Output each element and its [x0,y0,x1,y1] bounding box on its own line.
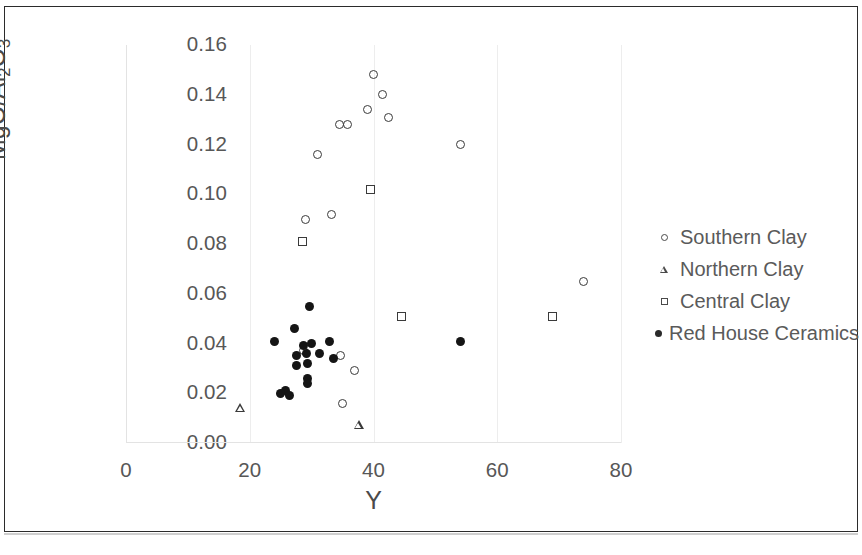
gridline [374,45,375,443]
data-point-red-house-ceramics [276,389,285,398]
x-tick-label: 20 [210,458,290,482]
legend-item-central-clay[interactable]: Central Clay [655,286,855,316]
legend-marker-icon [655,266,673,273]
legend-item-southern-clay[interactable]: Southern Clay [655,222,855,252]
data-point-southern-clay [384,113,393,122]
x-axis-title: Y [126,486,621,515]
data-point-red-house-ceramics [307,339,316,348]
data-point-southern-clay [301,215,310,224]
data-point-red-house-ceramics [302,349,311,358]
legend-marker-icon [655,234,673,241]
data-point-southern-clay [363,105,372,114]
legend-item-red-house-ceramics[interactable]: Red House Ceramics [655,318,855,348]
x-axis-line [126,442,621,443]
plot-area [126,45,621,443]
data-point-southern-clay [369,70,378,79]
data-point-southern-clay [350,366,359,375]
data-point-red-house-ceramics [292,351,301,360]
data-point-red-house-ceramics [290,324,299,333]
data-point-northern-clay [235,403,245,412]
x-tick-label: 60 [457,458,537,482]
gridline [250,45,251,443]
legend-item-label: Red House Ceramics [669,322,859,345]
data-point-southern-clay [313,150,322,159]
legend-item-label: Northern Clay [680,258,803,281]
x-tick-label: 40 [334,458,414,482]
data-point-southern-clay [456,140,465,149]
data-point-northern-clay [354,420,364,429]
data-point-red-house-ceramics [456,337,465,346]
data-point-red-house-ceramics [303,379,312,388]
chart-legend: Southern ClayNorthern ClayCentral ClayRe… [655,222,855,350]
data-point-red-house-ceramics [292,361,301,370]
data-point-southern-clay [338,399,347,408]
data-point-red-house-ceramics [305,302,314,311]
data-point-southern-clay [579,277,588,286]
data-point-central-clay [298,237,307,246]
data-point-red-house-ceramics [270,337,279,346]
scatter-plot-figure: 0.000.020.040.060.080.100.120.140.16 020… [0,0,862,555]
y-axis-title: MgO/Al2O3 [0,39,14,160]
legend-item-label: Central Clay [680,290,790,313]
data-point-red-house-ceramics [329,354,338,363]
data-point-red-house-ceramics [315,349,324,358]
x-tick-label: 0 [86,458,166,482]
legend-marker-icon [655,298,673,305]
legend-marker-icon [655,330,662,337]
data-point-red-house-ceramics [303,359,312,368]
data-point-red-house-ceramics [325,337,334,346]
legend-item-label: Southern Clay [680,226,807,249]
data-point-red-house-ceramics [285,391,294,400]
gridline [621,45,622,443]
y-axis-line [126,45,127,443]
data-point-central-clay [548,312,557,321]
data-point-southern-clay [378,90,387,99]
legend-item-northern-clay[interactable]: Northern Clay [655,254,855,284]
data-point-central-clay [397,312,406,321]
data-point-southern-clay [327,210,336,219]
x-tick-label: 80 [581,458,661,482]
data-point-central-clay [366,185,375,194]
data-point-southern-clay [343,120,352,129]
figure-shadow [4,533,858,535]
gridline [497,45,498,443]
